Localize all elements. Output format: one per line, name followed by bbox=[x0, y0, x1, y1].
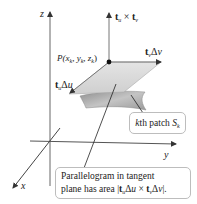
patch-text: th patch bbox=[140, 118, 173, 128]
patch-callout: kth patch Sk bbox=[129, 112, 186, 134]
normal-op: × bbox=[121, 11, 132, 22]
y-axis-label: y bbox=[164, 150, 168, 160]
tv-delta-v-label: tvΔv bbox=[145, 47, 162, 58]
normal-t2-sub: v bbox=[135, 17, 138, 23]
parallelogram-callout: Parallelogram in tangent plane has area … bbox=[55, 167, 191, 199]
area-prefix: plane has area | bbox=[61, 184, 119, 194]
point-suffix: ) bbox=[94, 53, 97, 63]
tangent-plane-parallelogram bbox=[69, 62, 161, 94]
y-axis bbox=[30, 141, 176, 144]
z-axis-label: z bbox=[40, 9, 44, 19]
x-axis bbox=[13, 128, 60, 188]
surface-patch bbox=[80, 91, 146, 110]
area-suffix: |. bbox=[162, 184, 166, 194]
point-p bbox=[107, 60, 112, 65]
point-x-sub: k bbox=[70, 58, 73, 64]
tv-var: v bbox=[157, 46, 161, 57]
normal-vector-label: tu × tv bbox=[115, 12, 138, 23]
point-label: P(xk, yk, zk) bbox=[57, 54, 97, 64]
parallelogram-line1: Parallelogram in tangent bbox=[61, 170, 190, 183]
patch-s-sub: k bbox=[177, 123, 180, 129]
x-axis-label: x bbox=[21, 181, 25, 191]
tu-var: u bbox=[68, 79, 73, 90]
area-op: × bbox=[136, 184, 146, 194]
parallelogram-line2: plane has area |tuΔu × tvΔv|. bbox=[61, 183, 190, 199]
tu-delta-u-label: tuΔu bbox=[55, 80, 73, 91]
point-prefix: P( bbox=[57, 53, 66, 63]
point-y-sub: k bbox=[81, 58, 84, 64]
